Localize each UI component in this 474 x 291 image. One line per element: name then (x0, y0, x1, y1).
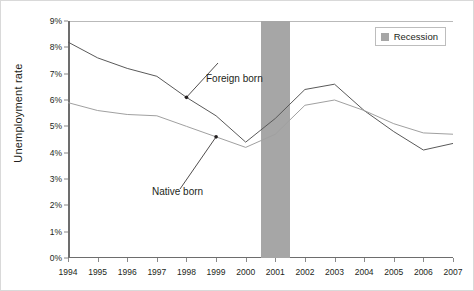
x-tick-mark (157, 258, 158, 262)
x-tick-label: 2003 (325, 267, 344, 277)
y-tick-label: 3% (50, 174, 62, 184)
x-tick-label: 1995 (88, 267, 107, 277)
y-tick-label: 1% (50, 227, 62, 237)
x-tick-mark (394, 258, 395, 262)
x-tick-label: 1998 (177, 267, 196, 277)
x-tick-mark (246, 258, 247, 262)
x-tick-label: 2006 (414, 267, 433, 277)
x-tick-mark (127, 258, 128, 262)
annotation-leader-layer (68, 21, 453, 258)
annotation-foreign-born: Foreign born (206, 73, 263, 84)
annotation-anchor-dot (185, 96, 189, 100)
x-tick-label: 2000 (236, 267, 255, 277)
y-tick-label: 4% (50, 148, 62, 158)
annotation-native-born: Native born (152, 186, 203, 197)
legend-swatch-recession (381, 33, 389, 41)
x-tick-mark (275, 258, 276, 262)
y-tick-label: 5% (50, 121, 62, 131)
plot-area: 0%1%2%3%4%5%6%7%8%9% 1994199519961997199… (68, 21, 453, 258)
x-tick-mark (216, 258, 217, 262)
y-tick-label: 9% (50, 16, 62, 26)
x-tick-mark (98, 258, 99, 262)
y-tick-label: 7% (50, 69, 62, 79)
y-tick-label: 2% (50, 200, 62, 210)
annotation-anchor-dot (214, 135, 218, 139)
x-tick-label: 1999 (207, 267, 226, 277)
annotation-leader-line (180, 137, 216, 189)
y-tick-label: 6% (50, 95, 62, 105)
y-axis-label: Unemployment rate (12, 23, 24, 203)
legend-label-recession: Recession (394, 31, 438, 42)
x-tick-label: 1996 (118, 267, 137, 277)
x-tick-label: 2002 (295, 267, 314, 277)
legend: Recession (375, 27, 446, 46)
x-tick-label: 1997 (147, 267, 166, 277)
x-tick-label: 2001 (266, 267, 285, 277)
x-tick-label: 2007 (444, 267, 463, 277)
x-tick-mark (68, 258, 69, 262)
x-tick-mark (453, 258, 454, 262)
x-tick-label: 2004 (355, 267, 374, 277)
x-tick-label: 1994 (59, 267, 78, 277)
x-tick-mark (335, 258, 336, 262)
y-tick-label: 8% (50, 42, 62, 52)
y-tick-label: 0% (50, 253, 62, 263)
x-tick-mark (423, 258, 424, 262)
x-tick-label: 2005 (384, 267, 403, 277)
x-tick-mark (305, 258, 306, 262)
x-tick-mark (186, 258, 187, 262)
x-tick-mark (364, 258, 365, 262)
